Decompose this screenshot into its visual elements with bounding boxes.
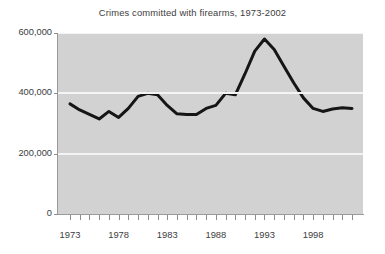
x-axis-tick	[158, 215, 159, 220]
x-axis-tick	[303, 215, 304, 220]
x-axis-tick	[148, 215, 149, 220]
x-axis-tick	[284, 215, 285, 220]
x-axis-tick	[80, 215, 81, 220]
x-axis-tick	[187, 215, 188, 220]
x-axis-tick	[323, 215, 324, 220]
chart-figure: Crimes committed with firearms, 1973-200…	[0, 0, 385, 254]
x-axis-tick	[235, 215, 236, 220]
x-tick-label: 1993	[254, 229, 275, 240]
x-axis-tick	[128, 215, 129, 220]
x-axis-tick	[216, 215, 217, 220]
x-axis-tick	[99, 215, 100, 220]
x-tick-label: 1998	[303, 229, 324, 240]
x-axis-tick	[294, 215, 295, 220]
x-axis-tick	[177, 215, 178, 220]
x-axis-tick	[226, 215, 227, 220]
x-axis-tick	[333, 215, 334, 220]
x-tick-label: 1983	[157, 229, 178, 240]
x-tick-label: 1988	[205, 229, 226, 240]
y-axis-tick	[54, 93, 58, 94]
x-axis-tick	[167, 215, 168, 220]
x-axis-tick	[274, 215, 275, 220]
y-axis-tick	[54, 214, 58, 215]
x-axis-tick	[89, 215, 90, 220]
x-axis-tick	[119, 215, 120, 220]
x-axis-tick	[70, 215, 71, 220]
y-axis-tick	[54, 154, 58, 155]
x-axis-tick	[196, 215, 197, 220]
x-axis-tick	[255, 215, 256, 220]
x-tick-label: 1973	[60, 229, 81, 240]
x-axis: 197319781983198819931998	[0, 0, 385, 254]
y-axis-tick	[54, 33, 58, 34]
x-axis-tick	[352, 215, 353, 220]
x-axis-tick	[109, 215, 110, 220]
x-axis-tick	[245, 215, 246, 220]
x-tick-label: 1978	[108, 229, 129, 240]
x-axis-tick	[264, 215, 265, 220]
x-axis-tick	[313, 215, 314, 220]
x-axis-tick	[342, 215, 343, 220]
x-axis-tick	[206, 215, 207, 220]
x-axis-tick	[138, 215, 139, 220]
